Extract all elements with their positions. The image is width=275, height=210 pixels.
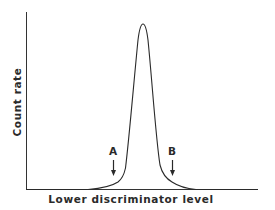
marker-b-label: B (168, 145, 176, 157)
arrow-b-icon (170, 160, 175, 176)
y-axis-label: Count rate (11, 57, 23, 147)
chart: A B Count rate Lower discriminator level (0, 0, 275, 210)
marker-a-label: A (109, 145, 117, 157)
spectrum-curve (26, 24, 258, 190)
arrow-a-icon (111, 160, 116, 176)
x-axis-label: Lower discriminator level (26, 193, 236, 205)
plot-area (0, 0, 275, 210)
